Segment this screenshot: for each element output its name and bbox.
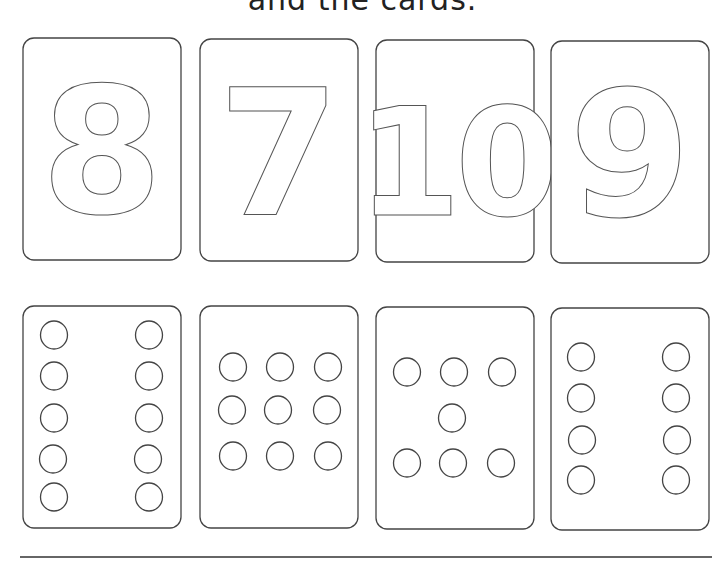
worksheet: 87109 [0, 0, 725, 572]
dot-card[interactable] [376, 307, 534, 529]
numeral-card[interactable]: 7 [200, 39, 358, 261]
numeral-card[interactable]: 10 [357, 40, 554, 262]
numeral-text: 10 [357, 76, 554, 250]
numeral-text: 7 [218, 52, 340, 255]
counting-dot [136, 483, 163, 511]
numeral-card[interactable]: 9 [551, 41, 709, 263]
counting-dot [663, 343, 690, 371]
card-border [551, 308, 709, 530]
counting-dot [219, 396, 246, 424]
counting-dot [315, 353, 342, 381]
counting-dot [265, 396, 292, 424]
counting-dot [488, 449, 515, 477]
counting-dot [314, 396, 341, 424]
counting-dot [135, 445, 162, 473]
counting-dot [267, 353, 294, 381]
counting-dot [41, 362, 68, 390]
counting-dot [663, 466, 690, 494]
dot-card-row [23, 306, 709, 530]
counting-dot [315, 442, 342, 470]
dot-card[interactable] [551, 308, 709, 530]
counting-dot [136, 362, 163, 390]
numeral-text: 8 [41, 51, 163, 254]
counting-dot [40, 445, 67, 473]
numeral-text: 9 [569, 54, 691, 257]
dot-card[interactable] [200, 306, 358, 528]
counting-dot [267, 442, 294, 470]
counting-dot [136, 404, 163, 432]
counting-dot [664, 426, 691, 454]
counting-dot [41, 321, 68, 349]
counting-dot [663, 384, 690, 412]
counting-dot [394, 449, 421, 477]
numeral-card[interactable]: 8 [23, 38, 181, 260]
numeral-card-row: 87109 [23, 38, 709, 263]
counting-dot [220, 353, 247, 381]
counting-dot [568, 343, 595, 371]
counting-dot [441, 358, 468, 386]
counting-dot [440, 449, 467, 477]
dot-card[interactable] [23, 306, 181, 528]
counting-dot [394, 358, 421, 386]
counting-dot [568, 466, 595, 494]
counting-dot [220, 442, 247, 470]
counting-dot [41, 483, 68, 511]
counting-dot [489, 358, 516, 386]
counting-dot [568, 384, 595, 412]
counting-dot [136, 321, 163, 349]
counting-dot [41, 404, 68, 432]
counting-dot [439, 404, 466, 432]
counting-dot [569, 426, 596, 454]
